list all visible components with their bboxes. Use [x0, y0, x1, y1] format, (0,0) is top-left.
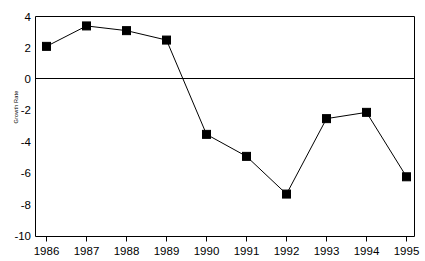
y-tick-label: -2 [21, 104, 31, 116]
data-point-marker [403, 173, 411, 181]
x-tick-label: 1986 [34, 245, 60, 257]
chart-canvas: 4 2 0 -2 -4 -6 -8 -10 Growth Rate 1986 [0, 0, 425, 261]
x-tick-label: 1990 [194, 245, 220, 257]
data-point-marker [283, 190, 291, 198]
x-tick-label: 1991 [234, 245, 260, 257]
x-tick-marks [47, 237, 407, 242]
growth-rate-markers [43, 22, 411, 198]
y-axis-title: Growth Rate [13, 90, 19, 123]
growth-rate-line [47, 26, 407, 194]
data-point-marker [203, 130, 211, 138]
y-tick-label: 4 [25, 11, 32, 23]
x-tick-label: 1989 [154, 245, 180, 257]
x-tick-label: 1994 [354, 245, 380, 257]
y-tick-label: 0 [25, 73, 31, 85]
data-point-marker [83, 22, 91, 30]
data-point-marker [363, 108, 371, 116]
x-tick-label: 1988 [114, 245, 140, 257]
y-tick-label: -4 [21, 136, 32, 148]
y-tick-label: 2 [25, 42, 31, 54]
data-point-marker [243, 152, 251, 160]
x-tick-label: 1993 [314, 245, 340, 257]
y-tick-label: -10 [14, 230, 31, 242]
x-tick-labels: 1986 1987 1988 1989 1990 1991 1992 1993 … [34, 245, 420, 257]
growth-rate-chart: 4 2 0 -2 -4 -6 -8 -10 Growth Rate 1986 [0, 0, 425, 261]
x-tick-label: 1995 [394, 245, 420, 257]
x-tick-label: 1987 [74, 245, 100, 257]
y-tick-label: -6 [21, 167, 31, 179]
plot-frame [36, 17, 415, 237]
y-tick-label: -8 [21, 199, 31, 211]
data-point-marker [43, 42, 51, 50]
data-point-marker [323, 115, 331, 123]
data-point-marker [123, 27, 131, 35]
x-tick-label: 1992 [274, 245, 300, 257]
data-point-marker [163, 36, 171, 44]
y-tick-labels: 4 2 0 -2 -4 -6 -8 -10 [14, 11, 31, 242]
